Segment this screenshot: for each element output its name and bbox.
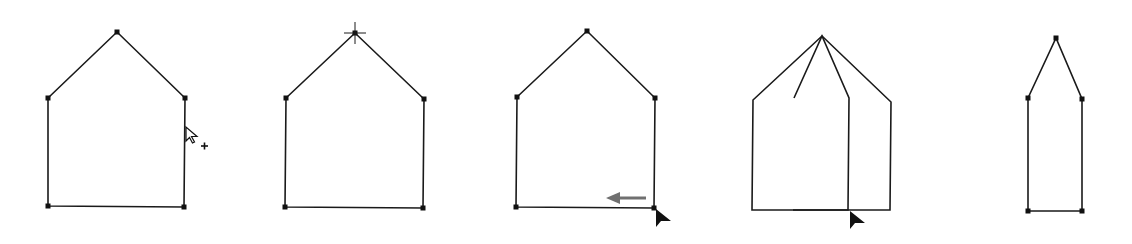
- add-anchor-cursor-icon: [186, 127, 197, 143]
- panel-step-5: [1026, 36, 1085, 214]
- anchor-point: [284, 96, 289, 101]
- path-outline: [516, 31, 655, 208]
- anchor-point: [585, 29, 590, 34]
- anchor-point: [515, 95, 520, 100]
- anchor-point: [183, 96, 188, 101]
- panel-step-1: [46, 30, 209, 210]
- anchor-point: [182, 205, 187, 210]
- path-outline-original: [752, 36, 891, 210]
- anchor-point: [1026, 96, 1031, 101]
- panel-step-4: [752, 36, 891, 229]
- anchor-point: [46, 204, 51, 209]
- anchor-point: [1080, 209, 1085, 214]
- anchor-point: [514, 205, 519, 210]
- anchor-point: [1054, 36, 1059, 41]
- path-outline: [1028, 38, 1082, 211]
- anchor-point: [422, 97, 427, 102]
- anchor-point: [46, 96, 51, 101]
- path-outline: [48, 32, 185, 207]
- path-outline: [285, 33, 424, 208]
- arrow-left-icon: [606, 192, 620, 204]
- panel-step-3: [514, 29, 672, 228]
- anchor-point: [115, 30, 120, 35]
- anchor-point: [1080, 97, 1085, 102]
- arrow-cursor-icon: [850, 211, 865, 229]
- path-outline-preview: [793, 36, 849, 210]
- panel-step-2: [283, 22, 427, 211]
- anchor-point: [421, 206, 426, 211]
- anchor-point: [652, 206, 657, 211]
- anchor-point: [1026, 209, 1031, 214]
- anchor-point: [283, 205, 288, 210]
- arrow-cursor-icon: [656, 209, 671, 227]
- anchor-point: [653, 96, 658, 101]
- diagram-canvas: [0, 0, 1132, 244]
